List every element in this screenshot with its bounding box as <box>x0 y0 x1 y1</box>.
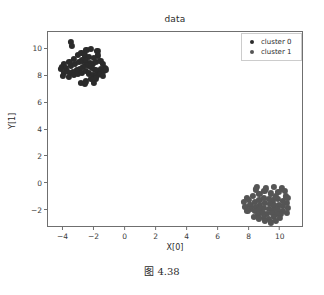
x-axis-tick: 0 <box>122 227 127 241</box>
x-axis-tick: 8 <box>246 227 251 241</box>
y-axis-tick: −2 <box>31 205 47 214</box>
y-axis-tick: 6 <box>37 98 47 107</box>
axis-tick-layer: −20246810−4−20246810 <box>47 31 303 227</box>
y-axis-tick: 2 <box>37 151 47 160</box>
x-axis-tick: 10 <box>275 227 285 241</box>
x-axis-tick: 6 <box>215 227 220 241</box>
x-axis-tick: 4 <box>184 227 189 241</box>
figure-container: data cluster 0 cluster 1 −20246810−4−202… <box>0 0 324 295</box>
x-axis-tick: 2 <box>153 227 158 241</box>
y-axis-tick: 10 <box>32 44 47 53</box>
y-axis-tick: 0 <box>37 178 47 187</box>
chart-title: data <box>47 14 303 24</box>
x-axis-tick: −2 <box>88 227 99 241</box>
y-axis-tick: 4 <box>37 125 47 134</box>
y-axis-label: Y[1] <box>8 113 17 129</box>
figure-caption: 图 4.38 <box>0 263 324 278</box>
x-axis-tick: −4 <box>57 227 68 241</box>
y-axis-tick: 8 <box>37 71 47 80</box>
x-axis-label: X[0] <box>47 243 303 252</box>
